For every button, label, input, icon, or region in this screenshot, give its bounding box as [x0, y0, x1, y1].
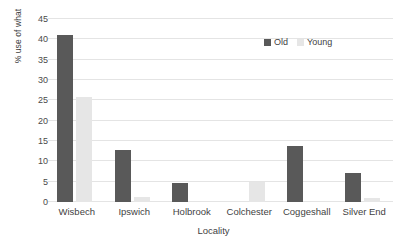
plot-area: [48, 19, 393, 202]
bar-group: [336, 19, 394, 202]
bar-young: [364, 198, 380, 202]
y-tick-label: 25: [8, 95, 48, 105]
legend-item-young[interactable]: Young: [297, 37, 332, 47]
x-tick-label: Colchester: [221, 206, 279, 218]
x-tick-label: Holbrook: [163, 206, 221, 218]
y-tick-label: 5: [8, 177, 48, 187]
y-tick-label: 10: [8, 156, 48, 166]
legend-label: Old: [274, 37, 288, 47]
y-tick-label: 40: [8, 34, 48, 44]
x-tick-label: Coggeshall: [278, 206, 336, 218]
bar-old: [345, 173, 361, 202]
x-tick-label: Silver End: [336, 206, 394, 218]
y-tick-label: 0: [8, 197, 48, 207]
bar-group: [163, 19, 221, 202]
legend-item-old[interactable]: Old: [264, 37, 288, 47]
legend-label: Young: [307, 37, 332, 47]
bar-group: [106, 19, 164, 202]
y-tick-label: 45: [8, 14, 48, 24]
bar-group: [48, 19, 106, 202]
bar-young: [134, 197, 150, 202]
x-axis-title: Locality: [0, 225, 401, 237]
y-tick-label: 15: [8, 136, 48, 146]
y-tick-label: 20: [8, 116, 48, 126]
bar-old: [57, 35, 73, 202]
bar-young: [249, 182, 265, 202]
x-tick-label: Wisbech: [48, 206, 106, 218]
bar-old: [287, 146, 303, 202]
bar-young: [76, 97, 92, 202]
y-tick-label: 35: [8, 55, 48, 65]
y-tick-label: 30: [8, 75, 48, 85]
bar-old: [172, 183, 188, 202]
legend-swatch-icon: [264, 39, 271, 46]
bar-old: [115, 150, 131, 202]
legend-swatch-icon: [297, 39, 304, 46]
x-tick-label: Ipswich: [106, 206, 164, 218]
bar-chart: % use of what 454035302520151050 Wisbech…: [0, 0, 401, 249]
chart-legend: OldYoung: [264, 37, 332, 47]
